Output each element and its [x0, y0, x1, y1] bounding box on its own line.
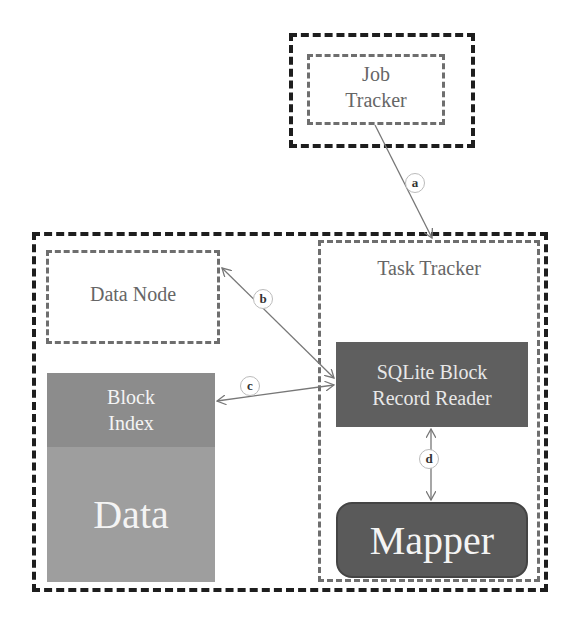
edge-a-label: a — [405, 173, 425, 193]
block-index-block: Block Index — [47, 373, 215, 447]
mapper-label: Mapper — [370, 517, 494, 564]
data-node-label: Data Node — [49, 283, 217, 306]
data-node: Data Node — [46, 250, 220, 344]
job-tracker-node: Job Tracker — [307, 54, 445, 125]
task-tracker-label: Task Tracker — [321, 257, 537, 280]
sqlite-block-record-reader: SQLite Block Record Reader — [336, 342, 528, 427]
block-index-label-line1: Block — [107, 384, 155, 410]
job-tracker-label-line1: Job — [310, 61, 442, 87]
data-block: Data — [47, 447, 215, 582]
sqlite-reader-label-line2: Record Reader — [372, 385, 491, 411]
data-label: Data — [93, 491, 169, 538]
edge-b-label: b — [253, 289, 273, 309]
mapper-node: Mapper — [336, 502, 528, 578]
edge-d-label: d — [419, 449, 439, 469]
edge-c-label: c — [240, 376, 260, 396]
sqlite-reader-label-line1: SQLite Block — [377, 359, 488, 385]
job-tracker-label-line2: Tracker — [310, 87, 442, 113]
block-index-label-line2: Index — [108, 410, 154, 436]
